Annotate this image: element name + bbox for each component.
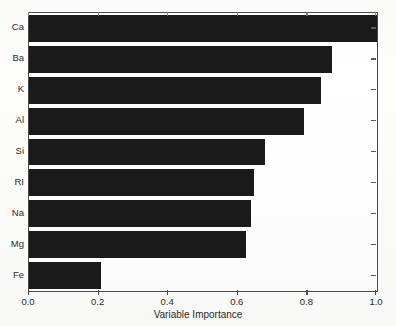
y-axis-label-fe: Fe [0, 270, 24, 280]
bar-k [29, 77, 321, 104]
y-axis-label-k: K [0, 84, 24, 94]
bar-row [29, 231, 377, 258]
bar-series [29, 13, 377, 291]
bar-al [29, 108, 304, 135]
top-tick-mark [98, 12, 99, 16]
bar-row [29, 77, 377, 104]
x-tick-mark [375, 290, 376, 295]
bar-row [29, 46, 377, 73]
x-axis-title: Variable Importance [0, 309, 396, 320]
top-tick-mark [28, 12, 29, 16]
y-axis-label-ba: Ba [0, 53, 24, 63]
bar-row [29, 169, 377, 196]
right-axis-ticks [371, 12, 376, 290]
right-tick-mark [371, 27, 376, 28]
bar-ri [29, 169, 254, 196]
right-tick-mark [371, 213, 376, 214]
bar-row [29, 15, 377, 42]
variable-importance-chart: Ca Ba K Al Si RI Na Mg Fe 0.0 0.2 0.4 [0, 0, 396, 326]
y-axis-label-mg: Mg [0, 239, 24, 249]
right-tick-mark [371, 89, 376, 90]
bar-fe [29, 262, 101, 289]
y-axis-label-al: Al [0, 115, 24, 125]
y-axis-label-na: Na [0, 208, 24, 218]
top-tick-mark [306, 12, 307, 16]
x-tick-label-1: 0.2 [91, 296, 104, 307]
y-axis-category-labels: Ca Ba K Al Si RI Na Mg Fe [0, 12, 24, 290]
top-axis-ticks [28, 12, 376, 17]
bar-row [29, 200, 377, 227]
bar-ca [29, 15, 377, 42]
bar-na [29, 200, 251, 227]
y-axis-label-ri: RI [0, 177, 24, 187]
y-axis-label-si: Si [0, 146, 24, 156]
bar-ba [29, 46, 332, 73]
bar-si [29, 139, 265, 166]
bar-mg [29, 231, 246, 258]
x-tick-label-0: 0.0 [21, 296, 34, 307]
top-tick-mark [237, 12, 238, 16]
x-tick-label-3: 0.6 [230, 296, 243, 307]
x-tick-label-4: 0.8 [300, 296, 313, 307]
x-tick-mark [167, 290, 168, 295]
x-tick-mark [28, 290, 29, 295]
x-tick-mark [237, 290, 238, 295]
right-tick-mark [371, 58, 376, 59]
bar-row [29, 108, 377, 135]
y-axis-label-ca: Ca [0, 22, 24, 32]
x-tick-label-5: 1.0 [369, 296, 382, 307]
right-tick-mark [371, 151, 376, 152]
x-tick-mark [306, 290, 307, 295]
x-tick-label-2: 0.4 [161, 296, 174, 307]
top-tick-mark [167, 12, 168, 16]
plot-area [28, 12, 378, 292]
right-tick-mark [371, 182, 376, 183]
right-tick-mark [371, 244, 376, 245]
x-tick-mark [98, 290, 99, 295]
right-tick-mark [371, 120, 376, 121]
bar-row [29, 262, 377, 289]
bar-row [29, 139, 377, 166]
right-tick-mark [371, 275, 376, 276]
x-axis-tick-labels: 0.0 0.2 0.4 0.6 0.8 1.0 [0, 296, 396, 310]
